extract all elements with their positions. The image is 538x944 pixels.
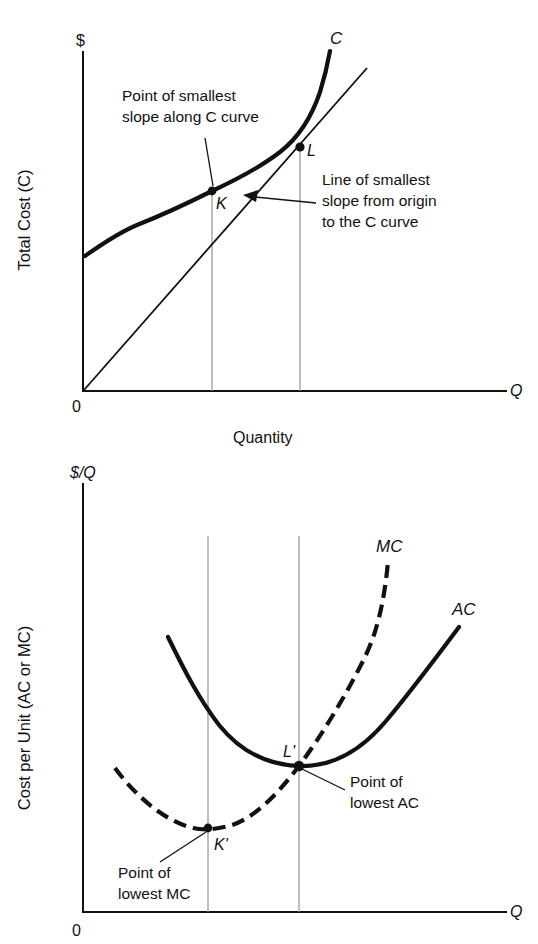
annotation-lowest-ac-line1: Point of [350, 773, 403, 790]
point-k-prime-label: K' [214, 836, 229, 853]
average-cost-curve [168, 627, 459, 766]
bottom-x-axis-symbol: Q [510, 903, 522, 920]
leader-line-ray [255, 197, 316, 203]
point-l-prime-label: L' [283, 743, 296, 760]
top-panel: $ C K L Point of smallest slope along C … [15, 29, 522, 446]
point-l-label: L [307, 142, 316, 159]
bottom-y-axis-label: Cost per Unit (AC or MC) [15, 626, 33, 810]
annotation-smallest-slope-line1: Point of smallest [122, 87, 236, 104]
top-y-unit-label: $ [76, 32, 85, 49]
annotation-lowest-ac-line2: lowest AC [350, 794, 419, 811]
annotation-smallest-slope-line2: slope along C curve [122, 108, 259, 125]
annotation-smallest-ray-line3: to the C curve [322, 213, 419, 230]
point-k-prime-marker [204, 824, 213, 833]
annotation-lowest-mc-line2: lowest MC [118, 885, 190, 902]
leader-line-point-k-prime [160, 832, 206, 862]
leader-line-point-k [205, 138, 213, 186]
top-x-axis-symbol: Q [510, 382, 522, 399]
point-l-marker [295, 142, 304, 151]
marginal-cost-curve-label: MC [376, 537, 403, 556]
bottom-origin-label: 0 [72, 922, 81, 939]
figure-canvas: $ C K L Point of smallest slope along C … [0, 0, 538, 944]
top-x-axis-label: Quantity [233, 429, 293, 446]
annotation-smallest-ray-line1: Line of smallest [322, 171, 430, 188]
marginal-cost-curve [115, 562, 388, 829]
bottom-y-unit-label: $/Q [69, 464, 96, 481]
leader-line-point-l-prime [302, 769, 345, 790]
annotation-lowest-mc-line1: Point of [118, 864, 171, 881]
point-k-label: K [216, 195, 228, 212]
total-cost-curve-label: C [330, 29, 343, 48]
annotation-smallest-ray-line2: slope from origin [322, 192, 437, 209]
top-y-axis-label: Total Cost (C) [15, 170, 33, 271]
cost-curves-figure: $ C K L Point of smallest slope along C … [0, 0, 538, 944]
top-origin-label: 0 [72, 398, 81, 415]
average-cost-curve-label: AC [451, 600, 476, 619]
bottom-panel: $/Q MC AC K' L' Point of lowest AC Point… [15, 464, 522, 939]
